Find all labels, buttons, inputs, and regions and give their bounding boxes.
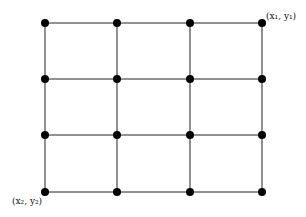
- grid-node: [41, 19, 49, 27]
- grid-node: [41, 75, 49, 83]
- grid-node: [186, 19, 194, 27]
- grid-node: [113, 131, 121, 139]
- grid-node: [186, 131, 194, 139]
- grid-node: [258, 75, 266, 83]
- label-top-right: (x₁, y₁): [266, 11, 296, 21]
- grid-node: [258, 19, 266, 27]
- grid-node: [113, 188, 121, 196]
- grid-node: [186, 75, 194, 83]
- grid-diagram: [0, 0, 306, 217]
- grid-node: [258, 188, 266, 196]
- grid-node: [113, 19, 121, 27]
- grid-node: [258, 131, 266, 139]
- grid-node: [41, 188, 49, 196]
- grid-node: [186, 188, 194, 196]
- grid-node: [113, 75, 121, 83]
- grid-node: [41, 131, 49, 139]
- label-bottom-left: (x₂, y₂): [12, 196, 42, 206]
